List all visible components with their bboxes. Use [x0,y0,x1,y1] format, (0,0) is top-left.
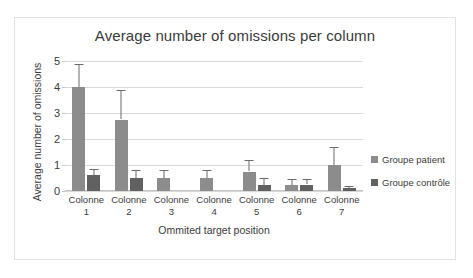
bar-column[interactable] [72,61,85,191]
error-bar [249,160,250,172]
error-bar-cap [159,170,168,171]
bar-group [235,61,278,191]
x-axis-title: Ommited target position [65,224,363,236]
bar-column[interactable] [215,61,228,191]
bar[interactable] [87,175,100,191]
bar-column[interactable] [343,61,356,191]
chart-container: Average number of omissions per column A… [14,17,456,260]
bar[interactable] [328,165,341,191]
y-axis-title: Average number of omissions [31,62,43,202]
x-axis-category-label: Colonne2 [108,194,151,218]
error-bar-cap [345,186,354,187]
y-axis-tick-label: 4 [54,82,60,93]
legend-swatch-icon-patient [371,156,378,163]
bar-groups [65,61,363,191]
bar-column[interactable] [258,61,271,191]
error-bar-cap [287,179,296,180]
x-axis-category-label: Colonne7 [320,194,363,218]
bar-column[interactable] [285,61,298,191]
bar-group [278,61,321,191]
error-bar-cap [89,169,98,170]
bar-column[interactable] [115,61,128,191]
bar-column[interactable] [300,61,313,191]
bar-group [150,61,193,191]
legend-swatch-icon-control [371,179,378,186]
bar[interactable] [72,87,85,191]
error-bar-cap [330,147,339,148]
y-axis-tick-label: 0 [54,186,60,197]
error-bar [163,170,164,178]
error-bar-cap [117,90,126,91]
error-bar [121,90,122,120]
chart-screenshot: Average number of omissions per column A… [0,0,473,278]
error-bar-cap [260,178,269,179]
bar-column[interactable] [328,61,341,191]
bar-group [108,61,151,191]
bar-group [65,61,108,191]
bar[interactable] [243,172,256,192]
error-bar [78,64,79,87]
x-axis-category-label: Colonne6 [278,194,321,218]
gridline [65,191,363,192]
x-axis-category-label: Colonne5 [235,194,278,218]
y-axis-tick-label: 2 [54,134,60,145]
error-bar [206,170,207,178]
error-bar [136,170,137,178]
bar-group [320,61,363,191]
legend-item-control: Groupe contrôle [371,177,450,188]
chart-legend: Groupe patient Groupe contrôle [371,154,450,200]
bar-group [193,61,236,191]
x-axis-tick-labels: Colonne1Colonne2Colonne3Colonne4Colonne5… [65,194,363,218]
bar[interactable] [200,178,213,191]
bar[interactable] [157,178,170,191]
x-axis-category-label: Colonne1 [65,194,108,218]
y-axis-tick-label: 3 [54,108,60,119]
legend-item-patient: Groupe patient [371,154,450,165]
bar-column[interactable] [200,61,213,191]
legend-label-control: Groupe contrôle [382,177,450,188]
error-bar-cap [302,179,311,180]
bar-column[interactable] [172,61,185,191]
error-bar [334,147,335,165]
bar-column[interactable] [243,61,256,191]
bar-column[interactable] [130,61,143,191]
y-axis-tick-label: 5 [54,56,60,67]
error-bar-cap [74,64,83,65]
error-bar-cap [245,160,254,161]
bar-column[interactable] [87,61,100,191]
bar[interactable] [130,178,143,191]
y-axis-tick-mark [62,191,65,192]
x-axis-category-label: Colonne3 [150,194,193,218]
bar[interactable] [258,185,271,192]
bar[interactable] [285,185,298,191]
x-axis-category-label: Colonne4 [193,194,236,218]
y-axis-tick-label: 1 [54,160,60,171]
legend-label-patient: Groupe patient [382,154,445,165]
bar[interactable] [343,188,356,191]
error-bar-cap [202,170,211,171]
bar[interactable] [300,185,313,192]
plot-area: 012345 [65,61,363,191]
bar[interactable] [115,120,128,192]
error-bar-cap [132,170,141,171]
bar-column[interactable] [157,61,170,191]
chart-title: Average number of omissions per column [15,27,455,44]
